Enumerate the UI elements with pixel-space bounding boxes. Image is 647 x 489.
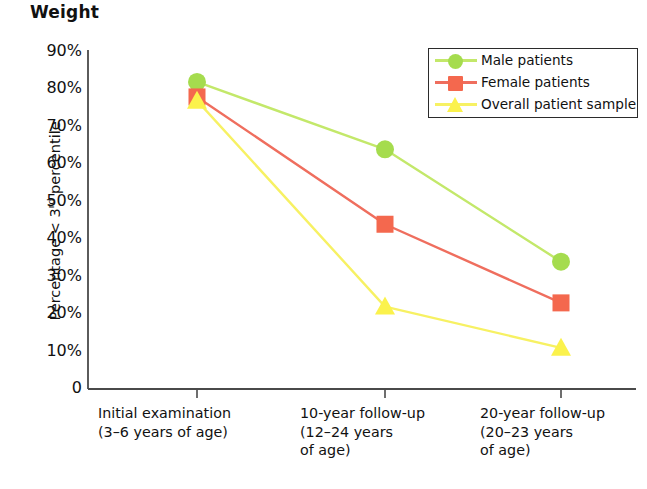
y-axis-tick-label: 50% [24,193,82,209]
y-axis-tick-label: 30% [24,268,82,284]
y-axis-tick-label: 80% [24,80,82,96]
y-axis-tick-label: 0 [24,380,82,396]
chart-legend: Male patientsFemale patientsOverall pati… [428,48,638,118]
legend-item[interactable]: Overall patient sample [429,93,637,115]
data-point-square [553,294,570,311]
legend-key [435,73,477,91]
legend-marker-square-icon [448,76,463,91]
legend-key [435,95,477,113]
data-point-circle [188,73,206,91]
legend-label: Overall patient sample [481,96,636,112]
y-axis-tick-labels: 90%80%70%60%50%40%30%20%10%0 [22,0,82,489]
y-axis-tick-label: 70% [24,118,82,134]
legend-marker-triangle-icon [447,97,463,112]
y-axis-tick-label: 10% [24,343,82,359]
legend-item[interactable]: Male patients [429,49,637,71]
data-point-circle [376,140,394,158]
y-axis-tick-label: 40% [24,230,82,246]
legend-label: Female patients [481,74,590,90]
x-axis-tick-label: 10-year follow-up (12–24 years of age) [300,404,425,460]
legend-label: Male patients [481,52,573,68]
legend-key [435,51,477,69]
data-point-circle [552,253,570,271]
y-axis-tick-label: 60% [24,155,82,171]
series-line-square [197,97,561,303]
legend-item[interactable]: Female patients [429,71,637,93]
y-axis-tick-label: 90% [24,43,82,59]
data-point-square [377,216,394,233]
y-axis-tick-label: 20% [24,305,82,321]
legend-marker-circle-icon [448,54,463,69]
x-axis-tick-label: 20-year follow-up (20–23 years of age) [480,404,605,460]
x-axis-tick-label: Initial examination (3–6 years of age) [98,404,231,441]
weight-line-chart: Weight Percentage < 3rd percentile 90%80… [0,0,647,489]
